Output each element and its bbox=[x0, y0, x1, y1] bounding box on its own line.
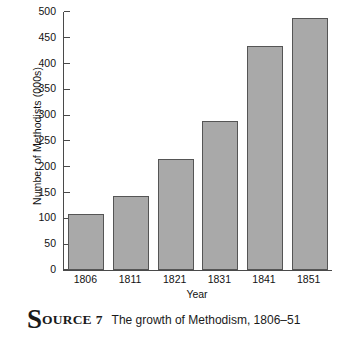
bar-chart: Number of Methodists (000s) 050100150200… bbox=[0, 0, 347, 302]
x-axis-title: Year bbox=[63, 288, 331, 300]
x-axis-tick-label: 1811 bbox=[108, 273, 153, 285]
plot-area: 050100150200250300350400450500 bbox=[63, 12, 332, 271]
bar bbox=[292, 18, 328, 270]
y-axis-tick-label: 350 bbox=[38, 82, 56, 95]
bar bbox=[68, 214, 104, 270]
x-axis-tick-label: 1851 bbox=[286, 273, 331, 285]
bar-slot bbox=[243, 12, 288, 270]
caption-description: The growth of Methodism, 1806–51 bbox=[103, 313, 301, 327]
bar-slot bbox=[153, 12, 198, 270]
bar-slot bbox=[198, 12, 243, 270]
x-axis-tick-label: 1841 bbox=[242, 273, 287, 285]
x-axis-tick-label: 1821 bbox=[152, 273, 197, 285]
y-axis-tick-label: 300 bbox=[38, 108, 56, 121]
x-axis-tick-label: 1831 bbox=[197, 273, 242, 285]
y-axis-tick-label: 500 bbox=[38, 5, 56, 18]
y-axis-tick-label: 0 bbox=[50, 263, 56, 276]
y-axis-tick-label: 100 bbox=[38, 211, 56, 224]
y-axis-tick-label: 450 bbox=[38, 31, 56, 44]
caption-source-word: OURCE bbox=[42, 312, 92, 328]
y-axis-tick-label: 400 bbox=[38, 57, 56, 70]
source-caption: S OURCE 7 The growth of Methodism, 1806–… bbox=[27, 305, 342, 335]
bar bbox=[202, 121, 238, 270]
y-axis-tick-label: 150 bbox=[38, 186, 56, 199]
bar-slot bbox=[64, 12, 109, 270]
bar-series bbox=[64, 12, 332, 270]
caption-source-number: 7 bbox=[92, 312, 103, 328]
x-axis-tick-label: 1806 bbox=[63, 273, 108, 285]
figure: Number of Methodists (000s) 050100150200… bbox=[0, 0, 347, 339]
bar bbox=[113, 196, 149, 270]
bar-slot bbox=[109, 12, 154, 270]
y-axis-tick-label: 50 bbox=[44, 237, 56, 250]
bar-slot bbox=[287, 12, 332, 270]
bar bbox=[158, 159, 194, 270]
bar bbox=[247, 46, 283, 270]
caption-dropcap: S bbox=[27, 309, 42, 329]
y-axis-tick-label: 250 bbox=[38, 134, 56, 147]
y-axis-tick-label: 200 bbox=[38, 160, 56, 173]
x-axis-tick-labels: 180618111821183118411851 bbox=[63, 273, 331, 285]
